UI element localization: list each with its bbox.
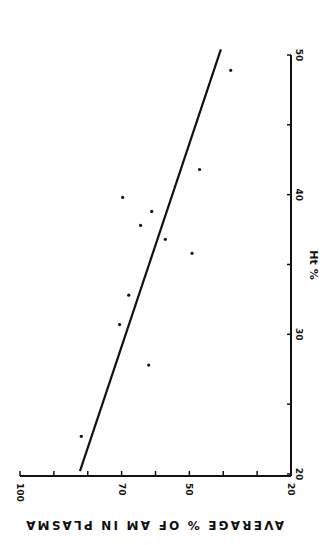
scatter-chart: 10070502020304050 Ht % AVERAGE % OF AM I… <box>0 0 331 545</box>
data-point <box>127 294 130 297</box>
data-point <box>150 210 153 213</box>
x-axis-title: Ht % <box>307 250 320 279</box>
data-point <box>139 224 142 227</box>
data-point <box>121 196 124 199</box>
average-tick-label: 100 <box>15 483 25 502</box>
axes <box>20 55 291 476</box>
ht-tick-label: 20 <box>294 468 304 481</box>
average-tick-label: 70 <box>117 483 127 496</box>
data-point <box>198 168 201 171</box>
tick-labels: 10070502020304050 <box>15 49 304 502</box>
ht-tick-label: 30 <box>294 328 304 341</box>
average-tick-label: 20 <box>286 483 296 496</box>
data-point <box>147 363 150 366</box>
plot-series <box>80 49 233 471</box>
data-point <box>229 69 232 72</box>
regression-line <box>80 49 221 471</box>
tick-marks <box>20 55 291 476</box>
data-point <box>164 238 167 241</box>
ht-tick-label: 50 <box>294 49 304 62</box>
data-point <box>80 435 83 438</box>
data-point <box>190 252 193 255</box>
average-tick-label: 50 <box>184 483 194 496</box>
ht-tick-label: 40 <box>294 188 304 201</box>
data-point <box>118 323 121 326</box>
y-axis-title: AVERAGE % OF AM IN PLASMA <box>24 518 284 532</box>
